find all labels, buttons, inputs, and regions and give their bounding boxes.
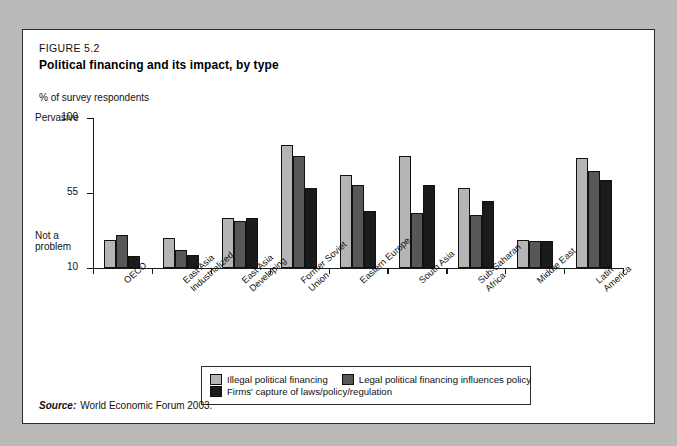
bar-group (446, 118, 505, 268)
bar-series3 (246, 218, 258, 268)
bar-series2 (293, 156, 305, 268)
bar-series3 (305, 188, 317, 268)
y-axis-tick-label: 100 (61, 111, 78, 122)
bar-series1 (281, 145, 293, 268)
bar-series1 (576, 158, 588, 268)
chart-plot-area: Pervasive Not a problem 1055100 OECDEast… (93, 118, 623, 268)
bar-group (152, 118, 211, 268)
figure-title: Political financing and its impact, by t… (39, 58, 279, 72)
bar-series2 (411, 213, 423, 268)
legend-entry-illegal-political-financing: Illegal political financing (210, 374, 328, 385)
figure-panel: FIGURE 5.2 Political financing and its i… (22, 29, 655, 424)
bar-series3 (600, 180, 612, 268)
bar-series1 (163, 238, 175, 268)
bar-series3 (423, 185, 435, 268)
x-axis-tick (93, 268, 94, 274)
figure-number: FIGURE 5.2 (39, 42, 100, 54)
legend-entry-firms-capture: Firms' capture of laws/policy/regulation (210, 386, 392, 397)
legend-label-series3: Firms' capture of laws/policy/regulation (227, 386, 392, 397)
bar-series1 (458, 188, 470, 268)
x-axis-tick (152, 268, 153, 274)
bar-series2 (175, 250, 187, 268)
y-axis-tick-label: 55 (67, 186, 78, 197)
bar-group (93, 118, 152, 268)
legend-swatch-icon-series2 (342, 374, 354, 385)
x-axis-tick (564, 268, 565, 274)
legend-row-top: Illegal political financing Legal politi… (210, 374, 522, 385)
source-text: World Economic Forum 2003. (80, 400, 212, 411)
bar-series2 (529, 241, 541, 268)
legend-swatch-icon-series3 (210, 386, 222, 397)
bar-series1 (104, 240, 116, 268)
bar-series2 (470, 215, 482, 268)
legend-label-series2: Legal political financing influences pol… (359, 374, 531, 385)
bar-series3 (482, 201, 494, 268)
bar-series3 (364, 211, 376, 268)
source-line: Source:World Economic Forum 2003. (39, 400, 212, 411)
source-label: Source: (39, 400, 76, 411)
legend-row-bottom: Firms' capture of laws/policy/regulation (210, 386, 522, 397)
y-axis-tick-label: 10 (67, 261, 78, 272)
x-axis-tick (446, 268, 447, 274)
axis-unit-label: % of survey respondents (39, 92, 149, 103)
bar-series2 (116, 235, 128, 268)
bar-group (564, 118, 623, 268)
bar-series2 (588, 171, 600, 268)
legend-swatch-icon-series1 (210, 374, 222, 385)
chart-legend: Illegal political financing Legal politi… (201, 366, 531, 405)
bar-series2 (234, 221, 246, 268)
bar-group (270, 118, 329, 268)
x-axis-tick (387, 268, 388, 274)
legend-label-series1: Illegal political financing (227, 374, 328, 385)
legend-entry-legal-political-financing: Legal political financing influences pol… (342, 374, 531, 385)
y-axis-bottom-anchor-label: Not a problem (35, 230, 71, 252)
